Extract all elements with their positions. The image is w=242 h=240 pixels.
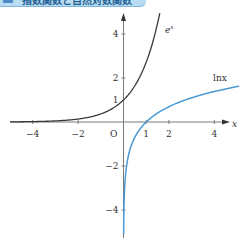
x-axis-arrow-icon bbox=[222, 120, 230, 125]
y-tick-label: 4 bbox=[113, 29, 119, 39]
exp-curve-label: ex bbox=[165, 23, 174, 35]
y-tick-label: 2 bbox=[113, 73, 119, 83]
exp-curve bbox=[10, 13, 160, 122]
x-tick-label: 4 bbox=[211, 129, 217, 139]
axes bbox=[10, 13, 230, 238]
y-tick-label: 1 bbox=[113, 95, 119, 105]
y-tick-label: −4 bbox=[105, 205, 119, 215]
ln-curve bbox=[124, 86, 240, 234]
x-axis-label: x bbox=[232, 119, 237, 129]
x-tick-label: 1 bbox=[143, 129, 149, 139]
x-tick-label: 2 bbox=[166, 129, 172, 139]
ln-curve-label: lnx bbox=[213, 73, 227, 83]
x-tick-label: −2 bbox=[71, 129, 84, 139]
x-tick-label: −4 bbox=[26, 129, 40, 139]
origin-label: O bbox=[110, 129, 117, 139]
y-tick-label: −2 bbox=[105, 161, 118, 171]
plot-area: −4−2124421−2−4 ex lnx x O bbox=[0, 0, 242, 240]
y-axis-arrow-icon bbox=[121, 13, 126, 21]
